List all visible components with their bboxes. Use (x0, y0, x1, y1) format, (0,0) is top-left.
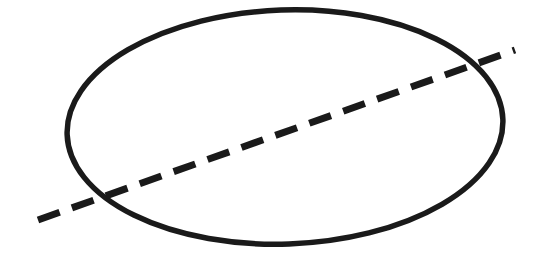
figure-container: Ellipse with dashed line through it (0, 0, 534, 257)
figure-background (0, 0, 534, 257)
figure-canvas (0, 0, 534, 257)
